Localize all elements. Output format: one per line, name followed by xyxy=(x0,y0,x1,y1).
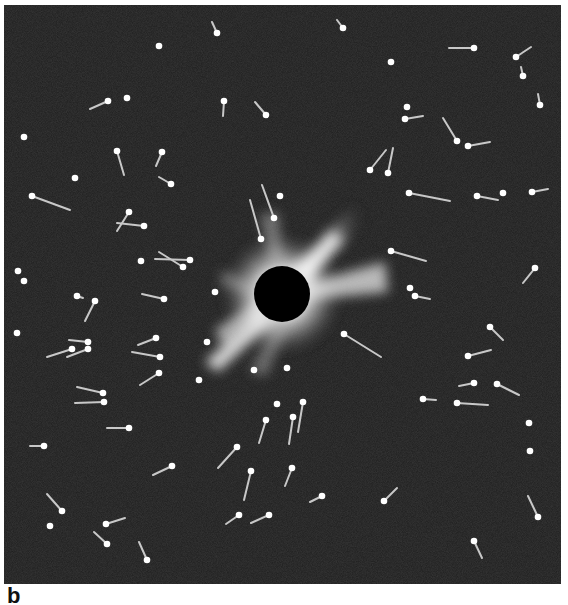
star xyxy=(300,399,307,406)
star xyxy=(407,285,414,292)
star xyxy=(59,508,66,515)
star xyxy=(144,557,151,564)
star xyxy=(465,353,472,360)
star xyxy=(105,98,112,105)
star xyxy=(187,257,194,264)
star xyxy=(494,381,501,388)
star xyxy=(388,59,395,66)
star xyxy=(274,401,281,408)
star xyxy=(161,296,168,303)
moon-disk xyxy=(254,266,310,322)
star-field-graphic xyxy=(4,5,561,584)
star xyxy=(284,365,291,372)
star xyxy=(420,396,427,403)
star xyxy=(214,30,221,37)
star xyxy=(527,448,534,455)
star xyxy=(529,189,536,196)
star xyxy=(100,390,107,397)
star xyxy=(277,193,284,200)
star xyxy=(251,367,258,374)
star xyxy=(471,380,478,387)
star xyxy=(385,170,392,177)
star xyxy=(236,512,243,519)
star xyxy=(532,265,539,272)
star xyxy=(412,293,419,300)
star xyxy=(85,346,92,353)
star xyxy=(465,143,472,150)
star xyxy=(101,399,108,406)
star xyxy=(153,335,160,342)
star xyxy=(14,330,21,337)
star xyxy=(156,370,163,377)
panel-label: b xyxy=(7,585,20,605)
star-trail xyxy=(75,402,104,403)
star xyxy=(471,45,478,52)
star xyxy=(402,116,409,123)
star xyxy=(263,417,270,424)
star xyxy=(290,414,297,421)
star xyxy=(454,138,461,145)
star xyxy=(29,193,36,200)
star xyxy=(266,512,273,519)
star xyxy=(212,289,219,296)
star xyxy=(263,112,270,119)
star xyxy=(92,298,99,305)
star xyxy=(103,521,110,528)
star xyxy=(69,346,76,353)
star xyxy=(141,223,148,230)
star xyxy=(234,444,241,451)
star xyxy=(248,468,255,475)
star xyxy=(381,498,388,505)
star xyxy=(289,465,296,472)
star xyxy=(74,293,81,300)
star xyxy=(168,181,175,188)
star xyxy=(388,248,395,255)
star xyxy=(487,324,494,331)
star xyxy=(41,443,48,450)
star xyxy=(124,95,131,102)
star xyxy=(21,134,28,141)
star xyxy=(454,400,461,407)
star xyxy=(157,354,164,361)
star xyxy=(526,420,533,427)
star xyxy=(126,209,133,216)
star xyxy=(471,538,478,545)
star xyxy=(204,339,211,346)
star xyxy=(537,102,544,109)
star xyxy=(169,463,176,470)
star xyxy=(138,258,145,265)
star xyxy=(196,377,203,384)
star xyxy=(21,278,28,285)
star xyxy=(114,148,121,155)
star xyxy=(520,73,527,80)
star xyxy=(340,25,347,32)
star xyxy=(47,523,54,530)
star xyxy=(341,331,348,338)
star xyxy=(126,425,133,432)
star xyxy=(535,514,542,521)
star xyxy=(221,98,228,105)
star xyxy=(180,264,187,271)
star xyxy=(404,104,411,111)
star xyxy=(474,193,481,200)
star xyxy=(156,43,163,50)
star xyxy=(85,339,92,346)
star xyxy=(104,541,111,548)
star xyxy=(15,268,22,275)
star xyxy=(500,190,507,197)
star xyxy=(258,236,265,243)
star xyxy=(513,54,520,61)
star xyxy=(159,149,166,156)
star xyxy=(72,175,79,182)
star xyxy=(319,493,326,500)
star xyxy=(406,190,413,197)
eclipse-star-field-panel xyxy=(4,5,561,584)
star xyxy=(367,167,374,174)
star xyxy=(271,215,278,222)
